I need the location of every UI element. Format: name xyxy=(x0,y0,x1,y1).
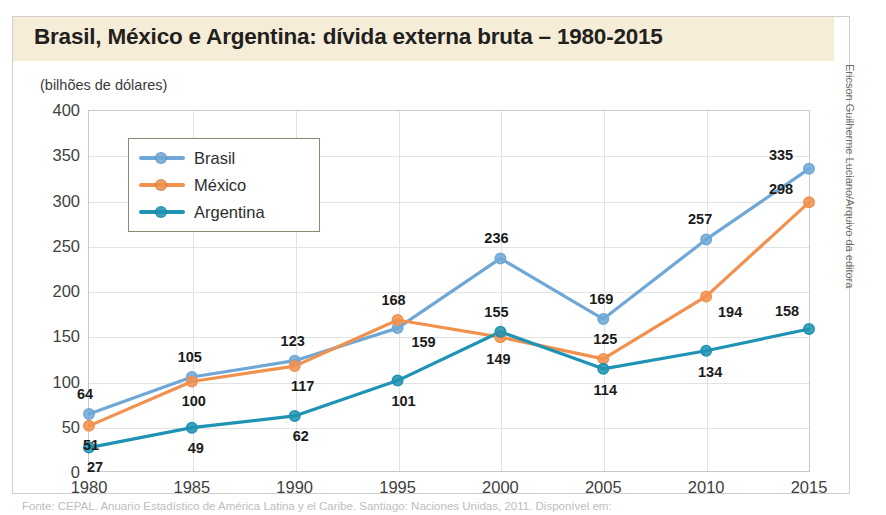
data-point-label: 117 xyxy=(291,378,314,394)
series-marker xyxy=(495,253,505,263)
data-point-label: 155 xyxy=(484,304,508,320)
data-point-label: 101 xyxy=(391,393,415,409)
data-point-label: 100 xyxy=(182,393,206,409)
y-axis-tick-label: 350 xyxy=(32,146,80,165)
data-point-label: 105 xyxy=(178,349,202,365)
series-marker xyxy=(187,376,197,386)
legend-swatch-icon xyxy=(139,205,185,219)
legend-item-mxico[interactable]: México xyxy=(139,172,246,198)
x-axis-tick-label: 2015 xyxy=(791,478,828,497)
axis-unit-label: (bilhões de dólares) xyxy=(40,77,167,93)
y-axis-ticks: 050100150200250300350400 xyxy=(28,110,80,472)
data-point-label: 159 xyxy=(411,334,435,350)
series-marker xyxy=(392,375,402,385)
y-axis-tick-label: 200 xyxy=(32,282,80,301)
x-axis-tick-label: 1985 xyxy=(173,478,210,497)
series-marker xyxy=(598,354,608,364)
y-axis-tick-label: 100 xyxy=(32,372,80,391)
y-axis-tick-label: 400 xyxy=(32,101,80,120)
data-point-label: 335 xyxy=(769,147,793,163)
data-point-label: 64 xyxy=(77,386,93,402)
series-marker xyxy=(598,364,608,374)
series-marker xyxy=(187,422,197,432)
legend-swatch-icon xyxy=(139,151,185,165)
y-axis-tick-label: 150 xyxy=(32,327,80,346)
legend-item-brasil[interactable]: Brasil xyxy=(139,145,235,171)
x-axis-tick-label: 2000 xyxy=(482,478,519,497)
data-point-label: 125 xyxy=(593,331,617,347)
series-marker xyxy=(701,234,711,244)
data-point-label: 169 xyxy=(589,291,613,307)
data-point-label: 114 xyxy=(594,382,617,398)
series-marker xyxy=(804,164,814,174)
x-axis-tick-label: 2005 xyxy=(585,478,622,497)
legend-item-label: Argentina xyxy=(194,203,265,222)
series-marker xyxy=(290,361,300,371)
data-point-label: 27 xyxy=(87,459,103,475)
y-axis-tick-label: 50 xyxy=(32,417,80,436)
source-note: Fonte: CEPAL. Anuario Estadístico de Amé… xyxy=(22,500,872,512)
x-axis-ticks: 19801985199019952000200520102015 xyxy=(88,478,810,502)
data-point-label: 123 xyxy=(281,333,305,349)
series-marker xyxy=(84,421,94,431)
x-axis-tick-label: 1990 xyxy=(276,478,313,497)
series-marker xyxy=(84,409,94,419)
data-point-label: 49 xyxy=(188,440,204,456)
series-marker xyxy=(804,197,814,207)
series-marker xyxy=(598,314,608,324)
data-point-label: 134 xyxy=(698,364,722,380)
series-marker xyxy=(392,315,402,325)
series-marker xyxy=(701,346,711,356)
legend-item-label: Brasil xyxy=(194,149,235,168)
x-axis-tick-label: 1980 xyxy=(71,478,108,497)
page-title: Brasil, México e Argentina: dívida exter… xyxy=(34,24,804,50)
data-point-label: 51 xyxy=(83,437,99,453)
series-marker xyxy=(290,411,300,421)
data-point-label: 62 xyxy=(293,428,309,444)
legend-swatch-icon xyxy=(139,178,185,192)
data-point-label: 149 xyxy=(486,351,510,367)
image-credit: Ericson Guilherme Luciano/Arquivo da edi… xyxy=(844,64,856,288)
x-axis-tick-label: 2010 xyxy=(688,478,725,497)
series-marker xyxy=(495,327,505,337)
legend-item-label: México xyxy=(194,176,246,195)
data-point-label: 168 xyxy=(381,292,405,308)
y-axis-tick-label: 300 xyxy=(32,191,80,210)
series-marker xyxy=(701,291,711,301)
data-point-label: 158 xyxy=(775,303,799,319)
legend-item-argentina[interactable]: Argentina xyxy=(139,199,265,225)
chart-figure: Brasil, México e Argentina: dívida exter… xyxy=(0,0,886,515)
data-point-label: 194 xyxy=(718,304,742,320)
data-point-label: 236 xyxy=(484,230,508,246)
x-axis-tick-label: 1995 xyxy=(379,478,416,497)
series-marker xyxy=(804,324,814,334)
data-point-label: 298 xyxy=(769,181,793,197)
legend[interactable]: BrasilMéxicoArgentina xyxy=(128,138,320,232)
data-point-label: 257 xyxy=(688,211,712,227)
y-axis-tick-label: 250 xyxy=(32,236,80,255)
